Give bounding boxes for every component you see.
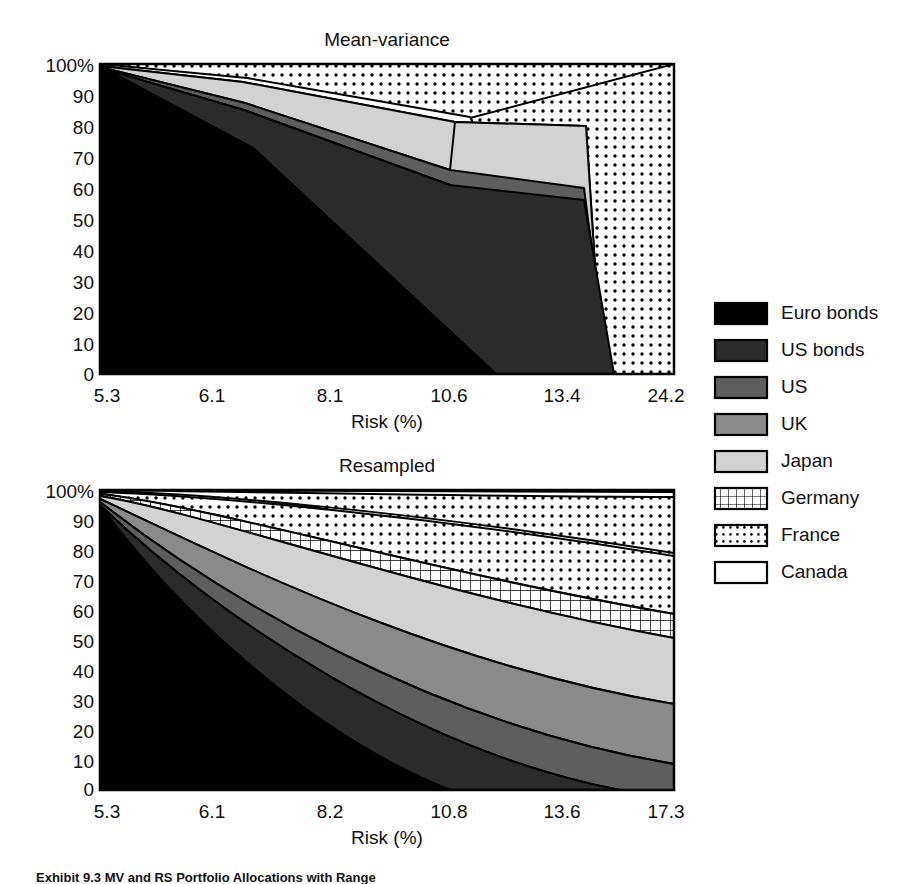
legend-swatch-france bbox=[715, 525, 767, 546]
legend-item-us[interactable]: US bbox=[715, 376, 807, 398]
x-tick-bot-5: 17.3 bbox=[648, 801, 685, 822]
y-tick-top-9: 10 bbox=[73, 334, 94, 355]
y-tick-top-1: 90 bbox=[73, 86, 94, 107]
x-tick-top-1: 6.1 bbox=[199, 385, 225, 406]
y-tick-bot-9: 10 bbox=[73, 751, 94, 772]
y-tick-top-6: 40 bbox=[73, 241, 94, 262]
y-tick-bot-7: 30 bbox=[73, 691, 94, 712]
legend-item-uk[interactable]: UK bbox=[715, 413, 808, 435]
x-axis-label-bottom: Risk (%) bbox=[351, 827, 423, 848]
panel-title-resampled: Resampled bbox=[339, 455, 435, 476]
x-tick-top-3: 10.6 bbox=[431, 385, 468, 406]
x-tick-top-5: 24.2 bbox=[648, 385, 685, 406]
legend-label-france: France bbox=[781, 524, 840, 545]
y-tick-bot-2: 80 bbox=[73, 541, 94, 562]
figure-root: Mean-variance 100% 90 80 bbox=[0, 0, 905, 884]
y-tick-bot-6: 40 bbox=[73, 661, 94, 682]
x-tick-bot-2: 8.2 bbox=[317, 801, 343, 822]
plot-area-mean-variance bbox=[100, 64, 674, 374]
x-tick-top-4: 13.4 bbox=[544, 385, 581, 406]
legend-swatch-germany bbox=[715, 488, 767, 509]
x-axis-label-top: Risk (%) bbox=[351, 411, 423, 432]
legend-label-canada: Canada bbox=[781, 561, 848, 582]
y-tick-top-8: 20 bbox=[73, 303, 94, 324]
x-tick-bot-3: 10.8 bbox=[431, 801, 468, 822]
legend-item-canada[interactable]: Canada bbox=[715, 561, 848, 583]
y-tick-bot-1: 90 bbox=[73, 511, 94, 532]
x-tick-top-0: 5.3 bbox=[94, 385, 120, 406]
legend-swatch-canada bbox=[715, 562, 767, 583]
y-tick-bot-8: 20 bbox=[73, 721, 94, 742]
x-tick-bot-1: 6.1 bbox=[199, 801, 225, 822]
legend-swatch-us bbox=[715, 377, 767, 398]
panel-title-mean-variance: Mean-variance bbox=[324, 29, 450, 50]
plot-area-resampled bbox=[100, 490, 674, 790]
figure-caption: Exhibit 9.3 MV and RS Portfolio Allocati… bbox=[36, 870, 376, 884]
y-tick-top-10: 0 bbox=[83, 364, 94, 385]
y-tick-bot-0: 100% bbox=[45, 481, 94, 502]
y-tick-top-4: 60 bbox=[73, 179, 94, 200]
legend-swatch-japan bbox=[715, 451, 767, 472]
y-tick-bot-3: 70 bbox=[73, 571, 94, 592]
panel-resampled: Resampled 100% bbox=[45, 455, 684, 848]
y-tick-top-3: 70 bbox=[73, 148, 94, 169]
legend-swatch-uk bbox=[715, 414, 767, 435]
legend-label-euro-bonds: Euro bonds bbox=[781, 302, 878, 323]
legend-label-us: US bbox=[781, 376, 807, 397]
y-tick-top-0: 100% bbox=[45, 55, 94, 76]
x-tick-top-2: 8.1 bbox=[317, 385, 343, 406]
panel-mean-variance: Mean-variance 100% 90 80 bbox=[45, 29, 684, 432]
legend-label-japan: Japan bbox=[781, 450, 833, 471]
y-tick-top-5: 50 bbox=[73, 210, 94, 231]
x-tick-bot-4: 13.6 bbox=[544, 801, 581, 822]
legend-item-us-bonds[interactable]: US bonds bbox=[715, 339, 864, 361]
y-tick-bot-10: 0 bbox=[83, 779, 94, 800]
legend-item-germany[interactable]: Germany bbox=[715, 487, 860, 509]
y-tick-top-7: 30 bbox=[73, 272, 94, 293]
legend-swatch-us-bonds bbox=[715, 340, 767, 361]
legend-label-uk: UK bbox=[781, 413, 808, 434]
legend-label-us-bonds: US bonds bbox=[781, 339, 864, 360]
legend-item-euro-bonds[interactable]: Euro bonds bbox=[715, 302, 878, 324]
legend-swatch-euro-bonds bbox=[715, 303, 767, 324]
legend-label-germany: Germany bbox=[781, 487, 860, 508]
y-tick-bot-5: 50 bbox=[73, 631, 94, 652]
y-tick-bot-4: 60 bbox=[73, 601, 94, 622]
y-tick-top-2: 80 bbox=[73, 117, 94, 138]
x-tick-bot-0: 5.3 bbox=[94, 801, 120, 822]
